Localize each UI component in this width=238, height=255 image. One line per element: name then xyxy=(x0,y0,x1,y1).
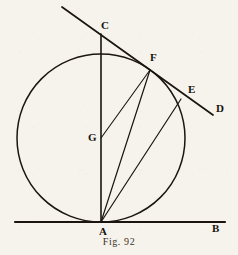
secant-line-cd xyxy=(62,7,213,115)
point-label-e: E xyxy=(188,84,196,95)
point-label-d: D xyxy=(216,103,224,114)
point-label-g: G xyxy=(88,132,97,143)
geometry-figure xyxy=(0,0,238,255)
radius-line-gf xyxy=(101,70,150,138)
chord-line-ae xyxy=(101,99,181,222)
figure-caption: Fig. 92 xyxy=(0,236,238,247)
point-label-f: F xyxy=(150,52,157,63)
point-label-c: C xyxy=(101,20,109,31)
figure-page: C F E D G A B Fig. 92 xyxy=(0,0,238,255)
point-label-b: B xyxy=(212,223,220,234)
chord-line-af xyxy=(101,70,150,222)
